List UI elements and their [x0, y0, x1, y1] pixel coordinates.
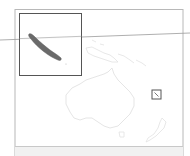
- loyalty-island-dot: [65, 63, 66, 64]
- map-canvas: [0, 0, 190, 156]
- locator-map: New Caledonia: [0, 0, 190, 156]
- inset-frame: [20, 14, 82, 76]
- map-bottom-strip: [15, 146, 183, 156]
